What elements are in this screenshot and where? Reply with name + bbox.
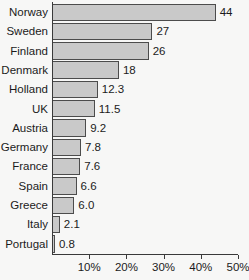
- x-axis-tick-label: 10%: [78, 261, 101, 273]
- bar: [52, 216, 60, 233]
- category-label: Sweden: [0, 22, 48, 41]
- category-label: France: [0, 157, 48, 176]
- category-label: Denmark: [0, 61, 48, 80]
- bar-value-label: 7.6: [84, 157, 100, 176]
- category-label: Spain: [0, 177, 48, 196]
- bar: [52, 23, 152, 40]
- x-axis-tick-label: 50%: [226, 261, 249, 273]
- category-label: UK: [0, 100, 48, 119]
- bar-value-label: 26: [153, 42, 166, 61]
- bar: [52, 139, 81, 156]
- bar-value-label: 2.1: [64, 215, 80, 234]
- plot-area: Norway44Sweden27Finland26Denmark18Hollan…: [0, 0, 249, 280]
- bar: [52, 119, 86, 136]
- bar-value-label: 12.3: [102, 80, 124, 99]
- bar: [52, 158, 80, 175]
- x-axis-line: [52, 254, 238, 255]
- bar: [52, 4, 216, 21]
- x-axis-tick-label: 20%: [115, 261, 138, 273]
- x-axis-tick: [164, 255, 165, 259]
- bar-value-label: 7.8: [85, 138, 101, 157]
- x-axis-tick: [89, 255, 90, 259]
- bar-value-label: 27: [156, 22, 169, 41]
- x-axis-tick-label: 40%: [189, 261, 212, 273]
- bar-value-label: 9.2: [90, 119, 106, 138]
- bar: [52, 61, 119, 78]
- bar-value-label: 11.5: [99, 100, 121, 119]
- bar: [52, 42, 149, 59]
- bar-value-label: 18: [123, 61, 136, 80]
- category-label: Norway: [0, 3, 48, 22]
- category-label: Finland: [0, 42, 48, 61]
- bar: [52, 100, 95, 117]
- x-axis-tick: [126, 255, 127, 259]
- x-axis-tick-label: 30%: [152, 261, 175, 273]
- category-label: Portugal: [0, 235, 48, 254]
- bar: [52, 177, 77, 194]
- x-axis-tick: [238, 255, 239, 259]
- bar: [52, 197, 74, 214]
- y-axis-line: [52, 2, 53, 255]
- category-label: Greece: [0, 196, 48, 215]
- bar: [52, 81, 98, 98]
- bar-value-label: 0.8: [59, 235, 75, 254]
- bar-value-label: 6.6: [81, 177, 97, 196]
- x-axis-tick: [201, 255, 202, 259]
- category-label: Germany: [0, 138, 48, 157]
- bar-value-label: 6.0: [78, 196, 94, 215]
- category-label: Italy: [0, 215, 48, 234]
- category-label: Holland: [0, 80, 48, 99]
- bar-chart: Norway44Sweden27Finland26Denmark18Hollan…: [0, 0, 249, 280]
- category-label: Austria: [0, 119, 48, 138]
- bar-value-label: 44: [220, 3, 233, 22]
